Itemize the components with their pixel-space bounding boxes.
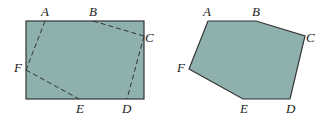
label-e-left: E (75, 101, 84, 116)
label-e-right: E (239, 101, 248, 116)
label-a-right: A (202, 4, 211, 19)
rectangle (26, 21, 144, 99)
label-d-right: D (285, 101, 296, 116)
label-b-right: B (252, 4, 260, 19)
left-figure: A B C D E F (13, 4, 154, 116)
hexagon (189, 21, 305, 99)
label-c-left: C (145, 30, 154, 45)
label-b-left: B (89, 4, 97, 19)
diagram-canvas: A B C D E F A B C D E F (0, 0, 328, 124)
label-f-right: F (176, 60, 186, 75)
label-d-left: D (121, 101, 132, 116)
label-f-left: F (13, 60, 23, 75)
label-a-left: A (40, 4, 49, 19)
right-figure: A B C D E F (176, 4, 315, 116)
label-c-right: C (306, 30, 315, 45)
